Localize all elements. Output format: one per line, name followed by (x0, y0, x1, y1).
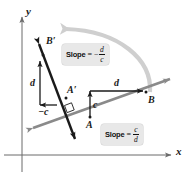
slope-fraction-rotated: d c (99, 46, 105, 63)
right-angle-marker (65, 103, 75, 113)
point-A-prime-dot (65, 97, 68, 100)
segment-label-rise-d: d (30, 78, 35, 88)
point-B-prime-dot (42, 54, 45, 57)
slope-minus-sign: − (94, 51, 99, 59)
slope-word-rotated: Slope (66, 51, 85, 59)
segment-label-run-neg-c: −c (38, 107, 49, 117)
slope-fraction-original: c d (133, 126, 139, 143)
slope-word-original: Slope (105, 131, 124, 139)
diagram-canvas (0, 0, 188, 180)
slope-diagram-figure: x y A B A′ B′ c d d −c Slope = − d c Slo… (0, 0, 188, 180)
slope-label-original: Slope = c d (101, 124, 143, 145)
slope-equals-rotated: = (87, 51, 92, 59)
slope-label-rotated: Slope = − d c (62, 44, 109, 65)
point-label-A-prime: A′ (67, 85, 76, 95)
slope-equals-original: = (126, 131, 131, 139)
x-axis-label: x (176, 146, 182, 157)
point-label-A: A (86, 120, 93, 130)
segment-label-rise-c: c (93, 100, 97, 110)
axis-group (4, 17, 171, 172)
y-axis-label: y (26, 6, 31, 17)
slope-denominator-rotated: c (99, 56, 104, 64)
segment-label-run-d: d (114, 78, 119, 88)
slope-numerator-original: c (133, 126, 138, 134)
point-label-B: B (148, 95, 155, 105)
slope-denominator-original: d (133, 136, 139, 144)
slope-numerator-rotated: d (99, 46, 105, 54)
point-label-B-prime: B′ (46, 36, 55, 46)
